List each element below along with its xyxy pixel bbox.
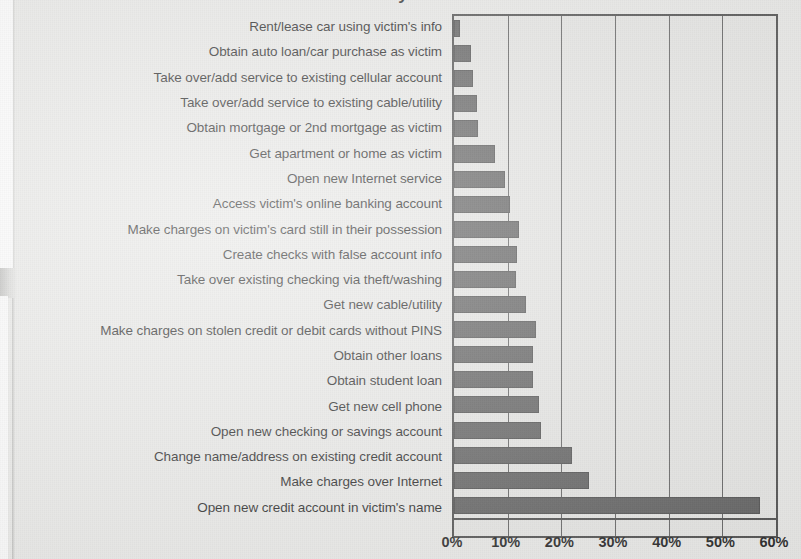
- bar-series: [454, 16, 776, 518]
- category-label: Get apartment or home as victim: [0, 140, 448, 165]
- category-label: Open new Internet service: [0, 166, 448, 191]
- bar: [454, 20, 460, 37]
- bar-row: [454, 493, 776, 518]
- bar-row: [454, 317, 776, 342]
- x-tick-label: 20%: [545, 534, 574, 550]
- category-label: Open new credit account in victim's name: [0, 495, 448, 520]
- bar-row: [454, 66, 776, 91]
- bar: [454, 472, 589, 489]
- x-tick-label: 10%: [491, 534, 520, 550]
- category-axis-labels: Rent/lease car using victim's infoObtain…: [0, 14, 448, 520]
- bar: [454, 171, 505, 188]
- category-label: Get new cell phone: [0, 393, 448, 418]
- bar: [454, 246, 517, 263]
- category-label: Change name/address on existing credit a…: [0, 444, 448, 469]
- category-label: Rent/lease car using victim's info: [0, 14, 448, 39]
- bar: [454, 371, 533, 388]
- bar-row: [454, 367, 776, 392]
- bar-row: [454, 141, 776, 166]
- bar: [454, 296, 526, 313]
- category-label: Take over/add service to existing cellul…: [0, 65, 448, 90]
- bar-row: [454, 468, 776, 493]
- bar: [454, 497, 760, 514]
- x-tick-label: 40%: [652, 534, 681, 550]
- category-label: Take over existing checking via theft/wa…: [0, 267, 448, 292]
- category-label: Open new checking or savings account: [0, 419, 448, 444]
- x-axis-tick-labels: 0%10%20%30%40%50%60%: [406, 534, 801, 559]
- x-tick-label: 50%: [706, 534, 735, 550]
- bar-row: [454, 443, 776, 468]
- bar: [454, 120, 478, 137]
- category-label: Make charges on stolen credit or debit c…: [0, 318, 448, 343]
- bar-row: [454, 342, 776, 367]
- bar-row: [454, 91, 776, 116]
- scanned-page: Identity Theft Rent/lease car using vict…: [0, 0, 801, 559]
- bar: [454, 70, 473, 87]
- bar-row: [454, 267, 776, 292]
- bar: [454, 321, 536, 338]
- bar-row: [454, 192, 776, 217]
- bar: [454, 145, 495, 162]
- category-label: Obtain student loan: [0, 368, 448, 393]
- bar-row: [454, 167, 776, 192]
- category-label: Obtain auto loan/car purchase as victim: [0, 39, 448, 64]
- plot-area: [452, 14, 778, 520]
- bar: [454, 396, 539, 413]
- bar-row: [454, 217, 776, 242]
- bar: [454, 271, 516, 288]
- bar: [454, 346, 533, 363]
- bar-row: [454, 116, 776, 141]
- category-label: Create checks with false account info: [0, 242, 448, 267]
- x-tick-label: 0%: [442, 534, 463, 550]
- scan-edge-top: [0, 0, 13, 268]
- x-tick-label: 60%: [759, 534, 788, 550]
- bar: [454, 422, 541, 439]
- category-label: Take over/add service to existing cable/…: [0, 90, 448, 115]
- category-label: Get new cable/utility: [0, 292, 448, 317]
- category-label: Make charges on victim's card still in t…: [0, 216, 448, 241]
- x-tick-label: 30%: [598, 534, 627, 550]
- bar: [454, 95, 477, 112]
- bar-row: [454, 392, 776, 417]
- horizontal-bar-chart: Rent/lease car using victim's infoObtain…: [0, 0, 801, 559]
- category-label: Access victim's online banking account: [0, 191, 448, 216]
- bar-row: [454, 16, 776, 41]
- scan-edge-bottom: [0, 296, 8, 559]
- bar-row: [454, 292, 776, 317]
- bar: [454, 45, 471, 62]
- category-label: Obtain mortgage or 2nd mortgage as victi…: [0, 115, 448, 140]
- category-label: Make charges over Internet: [0, 469, 448, 494]
- bar: [454, 196, 510, 213]
- scan-edge-shadow: [0, 268, 16, 298]
- bar-row: [454, 418, 776, 443]
- bar: [454, 447, 572, 464]
- bar-row: [454, 242, 776, 267]
- category-label: Obtain other loans: [0, 343, 448, 368]
- bar-row: [454, 41, 776, 66]
- bar: [454, 221, 519, 238]
